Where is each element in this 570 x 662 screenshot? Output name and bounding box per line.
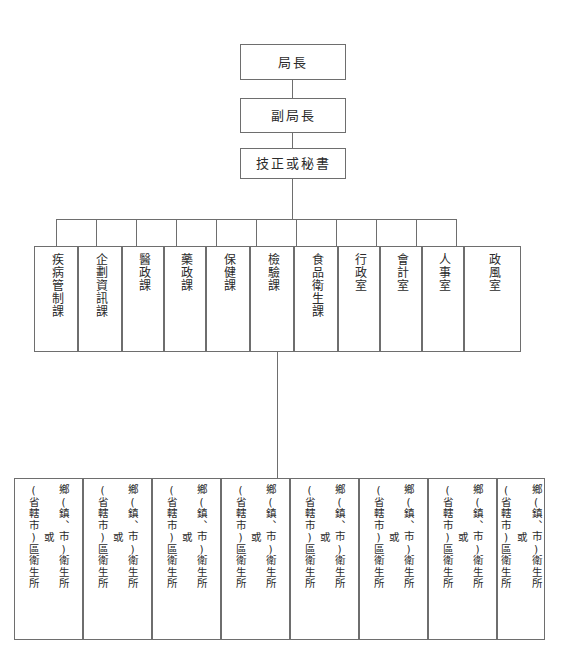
health-station-alternate-label: (省轄市)區衛生所: [499, 484, 513, 590]
drop-line-department-2: [96, 219, 97, 246]
node-department-food-sanitation[interactable]: 食品衛生課: [294, 246, 338, 352]
node-deputy-director[interactable]: 副局長: [240, 98, 346, 133]
health-station-conjunction-label: 或: [41, 484, 55, 544]
health-station-conjunction-label: 或: [386, 484, 400, 544]
drop-line-department-8: [336, 219, 337, 246]
node-department-medical-affairs[interactable]: 醫政課: [122, 246, 164, 352]
health-station-text-columns: 鄉(鎮、市)衛生所 或 (省轄市)區衛生所: [429, 484, 496, 639]
org-chart: 局長 副局長 技正或秘書 疾病管制課 企劃資訊課 醫政課 藥政課 保健課 檢驗課: [0, 0, 570, 662]
node-department-label: 保健課: [219, 253, 236, 292]
health-station-conjunction-label: 或: [514, 484, 528, 544]
health-station-alternate-label: (省轄市)區衛生所: [95, 484, 109, 590]
drop-line-department-10: [416, 219, 417, 246]
node-department-label: 企劃資訊課: [91, 253, 108, 318]
node-health-station[interactable]: 鄉(鎮、市)衛生所 或 (省轄市)區衛生所: [497, 478, 545, 640]
node-department-label: 行政室: [350, 253, 367, 292]
health-station-primary-label: 鄉(鎮、市)衛生所: [195, 484, 209, 590]
node-department-planning-information[interactable]: 企劃資訊課: [78, 246, 122, 352]
health-station-text-columns: 鄉(鎮、市)衛生所 或 (省轄市)區衛生所: [498, 484, 544, 639]
node-department-label: 政風室: [484, 253, 501, 292]
connector-secretary-bus: [292, 179, 293, 219]
drop-line-department-1: [56, 219, 57, 246]
node-department-label: 疾病管制課: [47, 253, 64, 318]
node-director-label: 局長: [278, 56, 308, 69]
node-department-label: 會計室: [392, 253, 409, 292]
health-station-alternate-label: (省轄市)區衛生所: [440, 484, 454, 590]
node-health-station[interactable]: 鄉(鎮、市)衛生所 或 (省轄市)區衛生所: [221, 478, 290, 640]
node-department-label: 藥政課: [176, 253, 193, 292]
health-station-conjunction-label: 或: [317, 484, 331, 544]
health-station-text-columns: 鄉(鎮、市)衛生所 或 (省轄市)區衛生所: [222, 484, 289, 639]
node-department-label: 醫政課: [134, 253, 151, 292]
health-station-text-columns: 鄉(鎮、市)衛生所 或 (省轄市)區衛生所: [291, 484, 358, 639]
connector-deputy-secretary: [292, 133, 293, 148]
node-health-station[interactable]: 鄉(鎮、市)衛生所 或 (省轄市)區衛生所: [152, 478, 221, 640]
health-station-text-columns: 鄉(鎮、市)衛生所 或 (省轄市)區衛生所: [360, 484, 427, 639]
node-health-station[interactable]: 鄉(鎮、市)衛生所 或 (省轄市)區衛生所: [290, 478, 359, 640]
node-department-civil-service-ethics-office[interactable]: 政風室: [464, 246, 521, 352]
connector-departments-health-stations: [277, 352, 278, 478]
node-department-health-promotion[interactable]: 保健課: [206, 246, 250, 352]
node-department-pharmaceutical-affairs[interactable]: 藥政課: [164, 246, 206, 352]
health-station-text-columns: 鄉(鎮、市)衛生所 或 (省轄市)區衛生所: [153, 484, 220, 639]
health-station-primary-label: 鄉(鎮、市)衛生所: [57, 484, 71, 590]
node-secretary[interactable]: 技正或秘書: [240, 148, 346, 179]
node-department-disease-control[interactable]: 疾病管制課: [34, 246, 78, 352]
health-station-conjunction-label: 或: [179, 484, 193, 544]
health-station-text-columns: 鄉(鎮、市)衛生所 或 (省轄市)區衛生所: [15, 484, 82, 639]
health-station-primary-label: 鄉(鎮、市)衛生所: [529, 484, 543, 590]
health-station-primary-label: 鄉(鎮、市)衛生所: [471, 484, 485, 590]
node-department-administration-office[interactable]: 行政室: [338, 246, 380, 352]
node-department-label: 檢驗課: [263, 253, 280, 292]
health-station-alternate-label: (省轄市)區衛生所: [233, 484, 247, 590]
node-department-accounting-office[interactable]: 會計室: [380, 246, 422, 352]
health-station-alternate-label: (省轄市)區衛生所: [371, 484, 385, 590]
health-station-primary-label: 鄉(鎮、市)衛生所: [264, 484, 278, 590]
health-station-conjunction-label: 或: [110, 484, 124, 544]
node-deputy-director-label: 副局長: [271, 109, 316, 122]
drop-line-department-6: [256, 219, 257, 246]
health-station-text-columns: 鄉(鎮、市)衛生所 或 (省轄市)區衛生所: [84, 484, 151, 639]
drop-line-department-5: [216, 219, 217, 246]
node-department-label: 食品衛生課: [307, 253, 324, 318]
health-station-conjunction-label: 或: [455, 484, 469, 544]
node-department-laboratory[interactable]: 檢驗課: [250, 246, 294, 352]
node-health-station[interactable]: 鄉(鎮、市)衛生所 或 (省轄市)區衛生所: [14, 478, 83, 640]
connector-director-deputy: [292, 80, 293, 98]
node-director[interactable]: 局長: [240, 44, 346, 80]
health-station-alternate-label: (省轄市)區衛生所: [26, 484, 40, 590]
drop-line-department-4: [176, 219, 177, 246]
drop-line-department-9: [376, 219, 377, 246]
node-health-station[interactable]: 鄉(鎮、市)衛生所 或 (省轄市)區衛生所: [359, 478, 428, 640]
health-station-conjunction-label: 或: [248, 484, 262, 544]
drop-line-department-7: [296, 219, 297, 246]
health-station-primary-label: 鄉(鎮、市)衛生所: [402, 484, 416, 590]
node-department-label: 人事室: [434, 253, 451, 292]
health-station-primary-label: 鄉(鎮、市)衛生所: [333, 484, 347, 590]
health-station-alternate-label: (省轄市)區衛生所: [302, 484, 316, 590]
node-health-station[interactable]: 鄉(鎮、市)衛生所 或 (省轄市)區衛生所: [428, 478, 497, 640]
node-health-station[interactable]: 鄉(鎮、市)衛生所 或 (省轄市)區衛生所: [83, 478, 152, 640]
node-department-personnel-office[interactable]: 人事室: [422, 246, 464, 352]
drop-line-department-11: [456, 219, 457, 246]
node-secretary-label: 技正或秘書: [256, 157, 331, 170]
health-station-primary-label: 鄉(鎮、市)衛生所: [126, 484, 140, 590]
health-station-alternate-label: (省轄市)區衛生所: [164, 484, 178, 590]
drop-line-department-3: [136, 219, 137, 246]
